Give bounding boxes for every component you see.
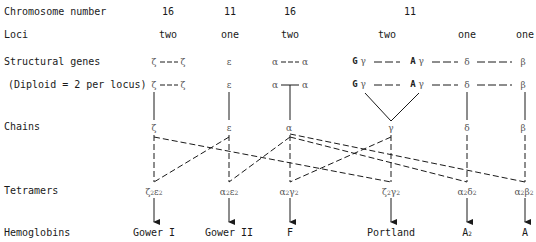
connector-lines bbox=[0, 0, 536, 242]
G-gamma-to-chain bbox=[365, 93, 391, 121]
A-gamma-to-chain bbox=[391, 93, 419, 121]
